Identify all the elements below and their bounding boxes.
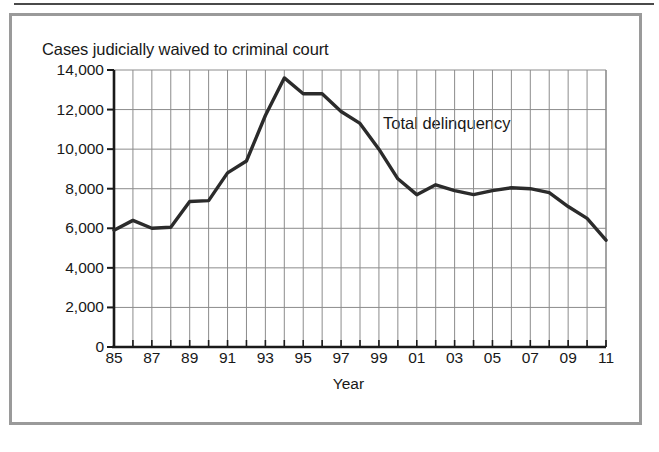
y-axis-tick-label: 6,000 <box>32 219 104 237</box>
y-axis-tick-label: 12,000 <box>32 101 104 119</box>
x-axis-tick-label: 93 <box>248 349 282 367</box>
x-axis-tick-label: 95 <box>286 349 320 367</box>
x-axis-tick-label: 11 <box>589 349 623 367</box>
y-axis-tick-label: 10,000 <box>32 140 104 158</box>
y-axis-tick-label: 14,000 <box>32 61 104 79</box>
chart-figure: Cases judicially waived to criminal cour… <box>0 0 659 452</box>
y-axis-tick-label: 8,000 <box>32 180 104 198</box>
x-axis-tick-label: 87 <box>135 349 169 367</box>
y-axis-tick-label: 4,000 <box>32 259 104 277</box>
y-axis-tick-label: 0 <box>32 338 104 356</box>
x-axis-tick-label: 07 <box>513 349 547 367</box>
x-axis-tick-label: 09 <box>551 349 585 367</box>
x-axis-title-text: Year <box>333 375 364 392</box>
x-axis-tick-label: 05 <box>475 349 509 367</box>
vertical-gridlines <box>114 70 606 347</box>
x-axis-tick-label: 89 <box>173 349 207 367</box>
x-axis-tick-label: 01 <box>400 349 434 367</box>
y-axis-tick-label: 2,000 <box>32 298 104 316</box>
x-axis-tick-label: 97 <box>324 349 358 367</box>
x-axis-tick-label: 85 <box>97 349 131 367</box>
x-axis-tick-label: 91 <box>211 349 245 367</box>
x-axis-tick-label: 99 <box>362 349 396 367</box>
x-axis-tick-label: 03 <box>438 349 472 367</box>
x-axis-title: Year <box>0 375 659 393</box>
